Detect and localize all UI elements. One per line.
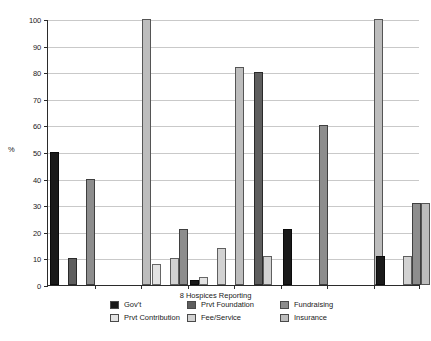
y-tick-mark xyxy=(44,126,48,127)
bar xyxy=(68,258,77,285)
y-tick-mark xyxy=(44,180,48,181)
legend-item[interactable]: Gov't xyxy=(110,299,180,310)
y-tick-label: 100 xyxy=(29,16,41,25)
bar xyxy=(50,152,59,285)
y-tick-mark xyxy=(44,73,48,74)
bar xyxy=(190,280,199,285)
x-tick-mark xyxy=(419,285,420,289)
y-tick-mark xyxy=(44,47,48,48)
legend-label: Fundraising xyxy=(294,301,333,309)
x-tick-mark xyxy=(188,285,189,289)
y-tick-mark xyxy=(44,233,48,234)
legend-item[interactable]: Fundraising xyxy=(280,299,333,310)
legend-item[interactable]: Prvt Contribution xyxy=(110,312,180,323)
y-tick-label: 50 xyxy=(33,149,41,158)
bar xyxy=(254,72,263,285)
x-tick-mark xyxy=(234,285,235,289)
bar-group xyxy=(329,20,376,285)
bar-group xyxy=(50,20,97,285)
bar xyxy=(152,264,161,285)
y-tick-label: 40 xyxy=(33,175,41,184)
y-tick-mark xyxy=(44,206,48,207)
y-tick-label: 70 xyxy=(33,95,41,104)
x-tick-mark xyxy=(141,285,142,289)
legend-swatch-govt xyxy=(110,301,119,309)
x-tick-mark xyxy=(95,285,96,289)
y-tick-mark xyxy=(44,20,48,21)
legend-swatch-fee-service xyxy=(187,314,196,322)
legend-label: Fee/Service xyxy=(201,314,241,322)
plot-area: 0102030405060708090100 xyxy=(47,20,419,286)
bar xyxy=(421,203,430,285)
y-axis-title: % xyxy=(8,145,15,154)
bar xyxy=(217,248,226,285)
legend-item[interactable]: Fee/Service xyxy=(187,312,254,323)
bar-group xyxy=(236,20,283,285)
bar-chart: % 0102030405060708090100 8 Hospices Repo… xyxy=(0,0,431,341)
bar xyxy=(283,229,292,285)
x-tick-mark xyxy=(281,285,282,289)
legend-label: Insurance xyxy=(294,314,327,322)
bar-group xyxy=(143,20,190,285)
bar xyxy=(412,203,421,285)
legend-label: Gov't xyxy=(124,301,141,309)
bar xyxy=(170,258,179,285)
bar xyxy=(319,125,328,285)
bar xyxy=(263,256,272,285)
legend-swatch-insurance xyxy=(280,314,289,322)
y-tick-label: 0 xyxy=(37,282,41,291)
legend-item[interactable]: Insurance xyxy=(280,312,333,323)
y-tick-mark xyxy=(44,259,48,260)
legend-column: FundraisingInsurance xyxy=(280,299,333,325)
bar xyxy=(179,229,188,285)
bar xyxy=(86,179,95,285)
y-tick-label: 60 xyxy=(33,122,41,131)
bar xyxy=(403,256,412,285)
bar-group xyxy=(97,20,144,285)
y-tick-label: 30 xyxy=(33,202,41,211)
bar-group xyxy=(190,20,237,285)
legend-swatch-fundraising xyxy=(280,301,289,309)
bar-group xyxy=(283,20,330,285)
legend-swatch-prvt-foundation xyxy=(187,301,196,309)
x-tick-mark xyxy=(327,285,328,289)
legend-column: Gov'tPrvt Contribution xyxy=(110,299,180,325)
y-tick-label: 20 xyxy=(33,228,41,237)
bar-group xyxy=(376,20,423,285)
legend-item[interactable]: Prvt Foundation xyxy=(187,299,254,310)
legend-swatch-prvt-contribution xyxy=(110,314,119,322)
legend-label: Prvt Foundation xyxy=(201,301,254,309)
bar xyxy=(376,256,385,285)
y-tick-mark xyxy=(44,286,48,287)
y-tick-mark xyxy=(44,100,48,101)
y-tick-label: 10 xyxy=(33,255,41,264)
y-tick-label: 80 xyxy=(33,69,41,78)
x-tick-mark xyxy=(374,285,375,289)
legend-label: Prvt Contribution xyxy=(124,314,180,322)
chart-legend: Gov'tPrvt ContributionPrvt FoundationFee… xyxy=(110,299,368,325)
y-tick-label: 90 xyxy=(33,42,41,51)
bar xyxy=(199,277,208,285)
y-tick-mark xyxy=(44,153,48,154)
legend-column: Prvt FoundationFee/Service xyxy=(187,299,254,325)
